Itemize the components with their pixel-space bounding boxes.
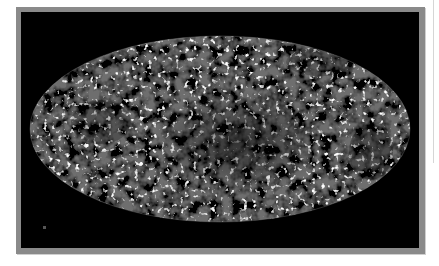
corner-mark — [43, 226, 46, 229]
sky-map — [21, 12, 419, 248]
sky-map-ellipse — [21, 12, 419, 248]
sky-map-canvas — [21, 12, 419, 248]
side-divider — [433, 0, 434, 163]
image-frame — [16, 7, 425, 254]
